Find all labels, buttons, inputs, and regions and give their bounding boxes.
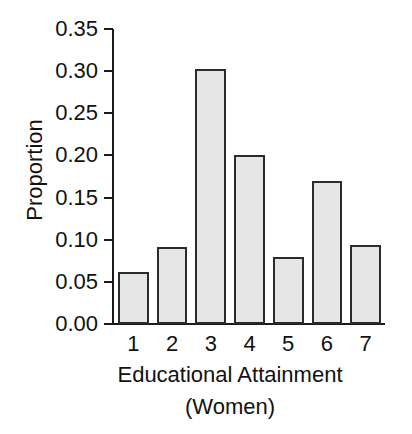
y-axis-tick-label: 0.30 (40, 58, 98, 84)
x-axis-tick-labels: 1234567 (114, 331, 385, 361)
x-axis-subtitle: (Women) (60, 394, 400, 420)
x-axis-tick-label: 3 (205, 331, 217, 357)
y-axis-tick-label: 0.00 (40, 311, 98, 337)
y-axis-tick-label: 0.35 (40, 16, 98, 42)
x-axis-tick-label: 5 (282, 331, 294, 357)
x-axis-tick-label: 6 (321, 331, 333, 357)
x-axis-tick-label: 4 (243, 331, 255, 357)
x-axis-title: Educational Attainment (60, 362, 400, 388)
bar (350, 245, 381, 324)
y-axis-tick-label: 0.20 (40, 142, 98, 168)
bar (195, 69, 226, 324)
x-axis-tick-label: 1 (127, 331, 139, 357)
y-axis-tick-label: 0.25 (40, 100, 98, 126)
bar (118, 272, 149, 324)
bar (273, 257, 304, 324)
bar-chart: Proportion 0.000.050.100.150.200.250.300… (0, 0, 412, 434)
x-axis-tick-label: 2 (166, 331, 178, 357)
x-axis-tick-label: 7 (360, 331, 372, 357)
plot-area (114, 29, 385, 324)
y-axis-tick-label: 0.05 (40, 269, 98, 295)
bar (234, 155, 265, 324)
bar (312, 181, 343, 324)
bar (157, 247, 188, 324)
y-axis-tick-label: 0.10 (40, 227, 98, 253)
y-axis-tick-label: 0.15 (40, 185, 98, 211)
